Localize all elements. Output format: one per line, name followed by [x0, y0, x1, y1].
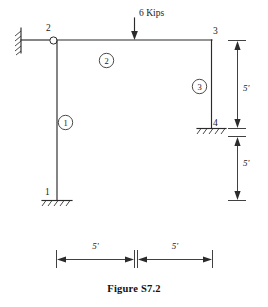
vertical-dimension-upper-label: 5' [243, 83, 251, 93]
support-node-2-wall [15, 28, 21, 55]
horizontal-dimension-left-label: 5' [92, 241, 100, 251]
node-label-3: 3 [213, 26, 218, 36]
load-label: 6 Kips [139, 8, 164, 18]
figure-caption: Figure S7.2 [0, 283, 268, 294]
vertical-dimension-lower: 5' [228, 137, 251, 201]
horizontal-dimension-left: 5' [57, 241, 135, 268]
support-node-4-ground [197, 129, 226, 135]
vertical-dimension-lower-label: 5' [243, 158, 251, 168]
member-label-1: 1 [58, 115, 72, 129]
member-label-3-text: 3 [197, 82, 201, 92]
node-label-2: 2 [46, 23, 51, 33]
figure-container: 6 Kips 2 3 4 1 1 2 3 5' [0, 0, 268, 307]
support-node-1-ground [42, 201, 72, 207]
member-label-2: 2 [99, 53, 113, 67]
member-label-3: 3 [192, 79, 206, 93]
horizontal-dimension-right: 5' [138, 241, 213, 268]
member-label-2-text: 2 [104, 56, 108, 66]
load-arrow-6-kips [131, 18, 138, 40]
member-label-1-text: 1 [63, 118, 67, 128]
node-label-4: 4 [213, 118, 218, 128]
node-label-1: 1 [45, 187, 50, 197]
vertical-dimension-upper: 5' [228, 41, 251, 129]
horizontal-dimension-right-label: 5' [172, 241, 180, 251]
frame-diagram: 6 Kips 2 3 4 1 1 2 3 5' [0, 0, 268, 307]
hinge-node-2 [50, 37, 57, 44]
